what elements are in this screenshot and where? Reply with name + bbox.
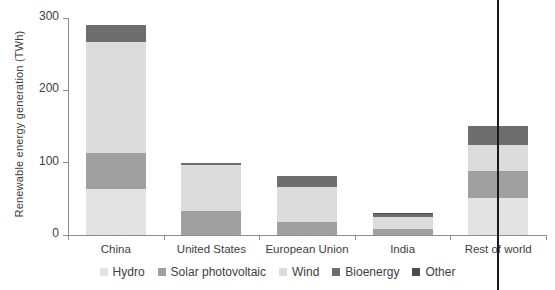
y-tick-mark	[63, 162, 68, 163]
legend-item-wind[interactable]: Wind	[279, 265, 319, 279]
legend-label: Solar photovoltaic	[171, 265, 266, 279]
legend-swatch-icon	[412, 268, 420, 276]
chart-legend: HydroSolar photovoltaicWindBioenergyOthe…	[0, 265, 555, 279]
legend-label: Hydro	[113, 265, 145, 279]
bar-segment-solar-photovoltaic	[181, 211, 241, 235]
bar-segment-solar-photovoltaic	[277, 222, 337, 235]
y-tick-mark	[63, 90, 68, 91]
page-scan-line	[497, 0, 499, 290]
bar-segment-hydro	[86, 189, 146, 235]
y-tick-mark	[63, 18, 68, 19]
x-axis-line	[68, 235, 546, 236]
x-tick-mark	[450, 235, 451, 240]
bar-segment-wind	[277, 187, 337, 222]
legend-item-other[interactable]: Other	[412, 265, 455, 279]
legend-swatch-icon	[279, 268, 287, 276]
legend-swatch-icon	[332, 268, 340, 276]
x-tick-mark	[259, 235, 260, 240]
bar-segment-bioenergy	[373, 214, 433, 217]
x-tick-mark	[355, 235, 356, 240]
renewable-energy-stacked-bar-chart: Renewable energy generation (TWh) 010020…	[0, 0, 555, 290]
bar-segment-wind	[86, 42, 146, 153]
bar-china	[86, 18, 146, 235]
legend-label: Other	[425, 265, 455, 279]
legend-swatch-icon	[158, 268, 166, 276]
y-tick-label: 300	[39, 9, 59, 23]
x-axis-label-european-union: European Union	[259, 243, 355, 255]
x-tick-mark	[68, 235, 69, 240]
bar-segment-wind	[373, 217, 433, 229]
bar-segment-bioenergy	[181, 163, 241, 165]
bar-segment-bioenergy	[277, 176, 337, 186]
legend-item-bioenergy[interactable]: Bioenergy	[332, 265, 399, 279]
y-tick-label: 200	[39, 81, 59, 95]
bar-segment-other	[373, 213, 433, 214]
y-axis-line	[68, 18, 69, 236]
bar-european-union	[277, 18, 337, 235]
legend-swatch-icon	[100, 268, 108, 276]
x-axis-label-china: China	[68, 243, 164, 255]
y-axis-title: Renewable energy generation (TWh)	[13, 9, 25, 239]
bar-segment-bioenergy	[86, 25, 146, 42]
x-axis-label-united-states: United States	[164, 243, 260, 255]
x-axis-label-india: India	[355, 243, 451, 255]
y-tick-label: 100	[39, 154, 59, 168]
bar-india	[373, 18, 433, 235]
bar-united-states	[181, 18, 241, 235]
y-tick-label: 0	[52, 226, 59, 240]
legend-label: Bioenergy	[345, 265, 399, 279]
legend-item-hydro[interactable]: Hydro	[100, 265, 145, 279]
bar-segment-solar-photovoltaic	[373, 229, 433, 236]
bar-segment-wind	[181, 165, 241, 211]
legend-item-solar-photovoltaic[interactable]: Solar photovoltaic	[158, 265, 266, 279]
legend-label: Wind	[292, 265, 319, 279]
x-tick-mark	[546, 235, 547, 240]
bar-segment-solar-photovoltaic	[86, 153, 146, 190]
x-tick-mark	[164, 235, 165, 240]
